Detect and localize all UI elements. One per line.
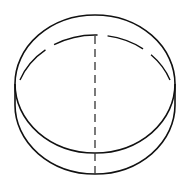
- cylinder-diagram: [0, 0, 187, 184]
- cylinder-figure: [0, 0, 187, 184]
